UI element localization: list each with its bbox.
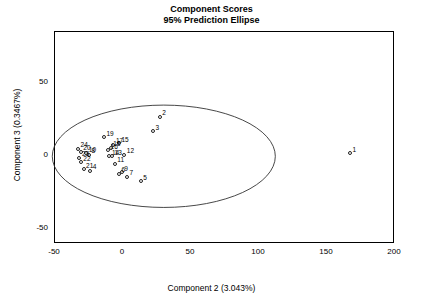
data-point [109, 146, 113, 150]
data-point [158, 115, 162, 119]
x-axis-label: Component 2 (3.043%) [0, 283, 423, 293]
x-tick-label: 0 [107, 247, 137, 256]
data-point-label: 12 [127, 147, 134, 154]
data-point-label: 19 [106, 130, 113, 137]
data-point-label: 11 [117, 156, 124, 163]
data-point-label: 2 [162, 109, 166, 116]
data-point [125, 175, 129, 179]
x-tick-label: 50 [175, 247, 205, 256]
data-point-label: 23 [82, 150, 89, 157]
x-tick-label: 200 [379, 247, 409, 256]
plot-area: 123456789101112131415161718192021222324 [54, 31, 394, 243]
chart-title: Component Scores 95% Prediction Ellipse [0, 4, 423, 26]
data-point-label: 21 [86, 162, 93, 169]
x-tick-label: 100 [243, 247, 273, 256]
data-point-label: 9 [124, 165, 128, 172]
x-tick-label: -50 [39, 247, 69, 256]
data-point [79, 160, 83, 164]
y-tick-label: 50 [20, 77, 48, 86]
y-axis-label: Component 3 (0.3467%) [12, 50, 22, 220]
chart-subtitle: 95% Prediction Ellipse [0, 15, 423, 26]
data-point-label: 24 [81, 141, 88, 148]
y-tick-label: -50 [20, 223, 48, 232]
data-point [139, 179, 143, 183]
data-point-label: 3 [155, 124, 159, 131]
y-tick-label: 0 [20, 150, 48, 159]
data-point-label: 18 [113, 140, 120, 147]
data-point-label: 5 [143, 174, 147, 181]
data-point [113, 162, 117, 166]
chart-container: Component Scores 95% Prediction Ellipse … [0, 0, 423, 300]
data-point-label: 1 [353, 146, 357, 153]
x-tick-label: 150 [311, 247, 341, 256]
data-point-label: 7 [130, 169, 134, 176]
chart-title-line1: Component Scores [0, 4, 423, 15]
data-point-label: 4 [93, 163, 97, 170]
